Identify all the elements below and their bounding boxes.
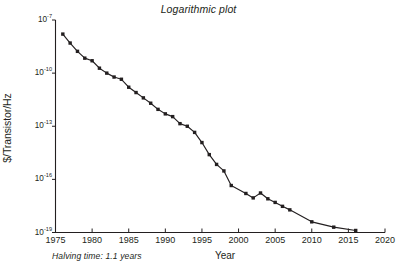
data-point-marker xyxy=(83,56,86,59)
data-point-marker xyxy=(171,115,174,118)
x-axis-tick-label: 2000 xyxy=(229,236,249,245)
data-point-marker xyxy=(332,225,335,228)
data-point-marker xyxy=(222,169,225,172)
data-point-marker xyxy=(354,229,357,232)
x-axis-tick-label: 1990 xyxy=(155,236,175,245)
data-point-marker xyxy=(105,71,108,74)
data-point-marker xyxy=(112,75,115,78)
y-axis-tick-label: 10-7 xyxy=(18,16,52,24)
data-point-marker xyxy=(193,131,196,134)
data-point-marker xyxy=(186,125,189,128)
data-point-marker xyxy=(149,102,152,105)
data-series-markers xyxy=(61,32,357,232)
data-point-marker xyxy=(208,153,211,156)
y-axis-tick-label: 10-10 xyxy=(18,69,52,77)
data-point-marker xyxy=(252,196,255,199)
data-point-marker xyxy=(273,201,276,204)
data-point-marker xyxy=(134,91,137,94)
x-axis-tick-label: 1975 xyxy=(45,236,65,245)
x-axis-tick-label: 2010 xyxy=(302,236,322,245)
data-point-marker xyxy=(259,191,262,194)
data-point-marker xyxy=(288,208,291,211)
data-point-marker xyxy=(120,78,123,81)
data-point-marker xyxy=(98,66,101,69)
x-axis-tick-label: 1995 xyxy=(192,236,212,245)
data-point-marker xyxy=(68,41,71,44)
data-point-marker xyxy=(164,112,167,115)
plot-area xyxy=(0,0,397,275)
logarithmic-plot-figure: Logarithmic plot $/Transistor/Hz Year Ha… xyxy=(0,0,397,275)
gridlines xyxy=(56,20,386,233)
data-point-marker xyxy=(230,184,233,187)
data-point-marker xyxy=(142,96,145,99)
x-axis-tick-label: 1985 xyxy=(119,236,139,245)
y-axis-tick-label: 10-13 xyxy=(18,122,52,130)
data-point-marker xyxy=(266,197,269,200)
x-axis-ticks xyxy=(56,229,386,233)
data-series-line xyxy=(63,34,356,230)
data-point-marker xyxy=(200,141,203,144)
data-point-marker xyxy=(76,50,79,53)
x-axis-tick-label: 1980 xyxy=(82,236,102,245)
data-point-marker xyxy=(178,122,181,125)
data-point-marker xyxy=(90,59,93,62)
y-axis-tick-label: 10-16 xyxy=(18,175,52,183)
data-point-marker xyxy=(281,205,284,208)
data-point-marker xyxy=(127,86,130,89)
x-axis-tick-label: 2015 xyxy=(338,236,358,245)
data-point-marker xyxy=(61,32,64,35)
data-point-marker xyxy=(215,163,218,166)
data-point-marker xyxy=(310,220,313,223)
data-point-marker xyxy=(244,192,247,195)
x-axis-tick-label: 2020 xyxy=(375,236,395,245)
data-point-marker xyxy=(156,108,159,111)
x-axis-tick-label: 2005 xyxy=(265,236,285,245)
